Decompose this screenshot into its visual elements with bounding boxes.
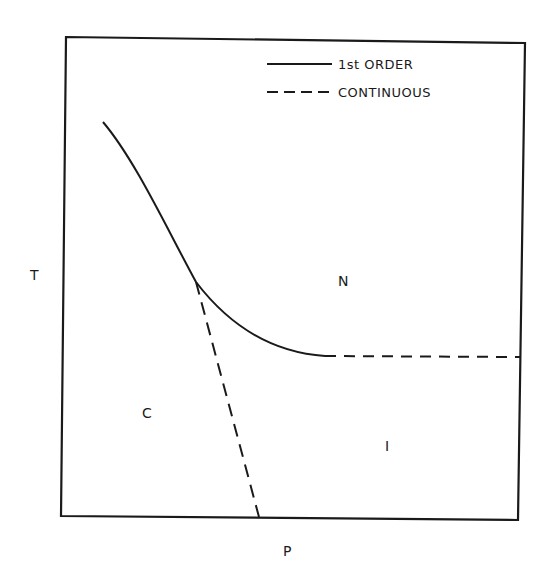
first-order-boundary-curve bbox=[103, 122, 325, 356]
continuous-boundary-horizontal bbox=[325, 356, 520, 357]
plot-frame bbox=[61, 37, 525, 520]
y-axis-label: T bbox=[29, 267, 39, 283]
region-label-n: N bbox=[338, 273, 348, 289]
legend-label-continuous: CONTINUOUS bbox=[338, 85, 431, 100]
legend-label-first-order: 1st ORDER bbox=[338, 57, 413, 72]
phase-diagram: 1st ORDER CONTINUOUS T P N C I bbox=[0, 0, 551, 577]
region-label-i: I bbox=[385, 438, 389, 454]
x-axis-label: P bbox=[283, 543, 291, 559]
legend: 1st ORDER CONTINUOUS bbox=[267, 57, 431, 100]
region-label-c: C bbox=[142, 405, 152, 421]
continuous-boundary-steep bbox=[196, 282, 259, 517]
